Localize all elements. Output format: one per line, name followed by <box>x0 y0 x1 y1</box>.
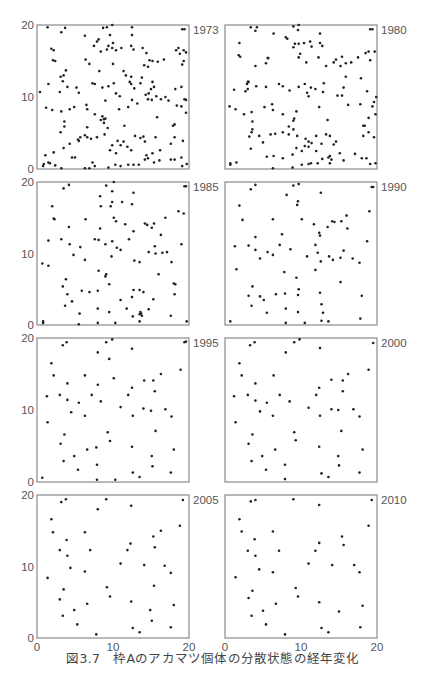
tree-point <box>297 294 300 297</box>
tree-point <box>369 59 372 62</box>
tree-point <box>332 61 335 64</box>
tree-point <box>94 238 97 241</box>
tree-point <box>72 254 75 257</box>
tree-point <box>84 531 87 534</box>
tree-point <box>325 133 328 136</box>
tree-point <box>59 91 62 94</box>
tree-point <box>274 448 277 451</box>
tree-point <box>160 98 163 101</box>
tree-point <box>112 42 115 45</box>
tree-point <box>327 631 330 634</box>
tree-point <box>272 254 275 257</box>
tree-point <box>365 157 368 160</box>
tree-point <box>295 147 298 150</box>
tree-point <box>254 236 257 239</box>
tree-point <box>241 219 244 222</box>
tree-point <box>64 27 67 30</box>
tree-point <box>60 110 63 113</box>
tree-point <box>86 602 89 605</box>
tree-point <box>90 138 93 141</box>
tree-point <box>361 605 364 608</box>
tree-point <box>292 128 295 131</box>
tree-point <box>107 45 110 48</box>
tree-point <box>115 220 118 223</box>
tree-point <box>295 110 298 113</box>
tree-point <box>179 524 182 527</box>
tree-point <box>62 460 65 463</box>
tree-point <box>114 479 117 482</box>
tree-point <box>90 394 93 397</box>
tree-point <box>111 47 114 50</box>
year-label: 1980 <box>381 24 407 36</box>
tree-point <box>141 76 144 79</box>
y-tick-label: 20 <box>21 489 34 501</box>
tree-point <box>94 113 97 116</box>
tree-point <box>126 145 129 148</box>
tree-point <box>149 609 152 612</box>
tree-point <box>97 289 100 292</box>
tree-point <box>292 184 295 187</box>
year-label: 2000 <box>381 337 407 349</box>
tree-point <box>65 498 68 501</box>
tree-point <box>70 411 73 414</box>
tree-point <box>368 210 371 213</box>
tree-point <box>364 125 367 128</box>
tree-point <box>47 83 50 86</box>
tree-point <box>251 128 254 131</box>
scatter-panel-2005: 20050102001020 <box>21 489 218 653</box>
tree-point <box>99 195 102 198</box>
tree-point <box>367 524 370 527</box>
tree-point <box>373 136 376 139</box>
tree-point <box>62 588 65 591</box>
tree-point <box>366 240 369 243</box>
tree-point <box>357 56 360 59</box>
tree-point <box>138 320 141 323</box>
tree-point <box>157 273 160 276</box>
scatter-panel-2000: 2000 <box>225 337 407 482</box>
tree-point <box>359 103 362 106</box>
tree-point <box>91 82 94 85</box>
tree-point <box>266 312 269 315</box>
tree-point <box>138 631 141 634</box>
tree-point <box>107 166 110 169</box>
tree-point <box>320 260 323 263</box>
tree-point <box>321 158 324 161</box>
tree-point <box>166 251 169 254</box>
tree-point <box>238 42 241 45</box>
tree-point <box>170 143 173 146</box>
year-label: 1995 <box>193 337 219 349</box>
tree-point <box>238 362 241 365</box>
scatter-panel-1985: 198501020 <box>21 176 218 331</box>
tree-point <box>151 99 154 102</box>
tree-point <box>163 565 166 568</box>
tree-point <box>154 430 157 433</box>
tree-point <box>330 408 333 411</box>
tree-point <box>157 60 160 63</box>
tree-point <box>321 45 324 48</box>
tree-point <box>111 240 114 243</box>
tree-point <box>86 126 89 129</box>
tree-point <box>258 568 261 571</box>
tree-point <box>181 63 184 66</box>
tree-point <box>304 322 307 325</box>
tree-point <box>119 165 122 168</box>
tree-point <box>262 141 265 144</box>
tree-point <box>152 379 155 382</box>
tree-point <box>367 368 370 371</box>
year-label: 1985 <box>193 181 219 193</box>
tree-point <box>39 91 42 94</box>
tree-point <box>79 246 82 249</box>
tree-point <box>318 386 321 389</box>
tree-point <box>332 259 335 262</box>
tree-point <box>110 255 113 258</box>
tree-point <box>130 504 133 507</box>
tree-point <box>96 479 99 482</box>
tree-point <box>373 50 376 53</box>
tree-point <box>244 90 247 93</box>
tree-point <box>148 59 151 62</box>
tree-point <box>106 48 109 51</box>
tree-point <box>263 106 266 109</box>
tree-point <box>281 233 284 236</box>
tree-point <box>180 105 183 108</box>
tree-point <box>314 88 317 91</box>
